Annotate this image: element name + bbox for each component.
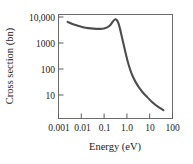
x-tick-label-0.001: 0.001 bbox=[48, 123, 70, 133]
y-axis-ticks bbox=[59, 17, 64, 95]
x-tick-label-1.0: 1.0 bbox=[121, 123, 133, 133]
x-tick-label-0.01: 0.01 bbox=[74, 123, 91, 133]
plot-frame bbox=[59, 15, 173, 119]
x-tick-label-0.1: 0.1 bbox=[99, 123, 111, 133]
y-tick-label-10000: 10,000 bbox=[29, 13, 55, 23]
x-tick-label-10: 10 bbox=[145, 123, 155, 133]
cross-section-plot: 10,000 1000 100 10 0.001 0.01 0.1 1.0 10… bbox=[0, 0, 193, 164]
data-series-cross-section bbox=[68, 19, 164, 110]
y-tick-label-1000: 1000 bbox=[36, 39, 55, 49]
x-tick-label-100: 100 bbox=[165, 123, 180, 133]
y-tick-label-10: 10 bbox=[46, 91, 56, 101]
x-axis-title: Energy (eV) bbox=[89, 141, 141, 153]
x-axis-ticks bbox=[59, 114, 173, 119]
y-axis-title: Cross section (bn) bbox=[4, 27, 16, 104]
y-tick-label-100: 100 bbox=[41, 65, 56, 75]
chart-figure: 10,000 1000 100 10 0.001 0.01 0.1 1.0 10… bbox=[0, 0, 193, 164]
